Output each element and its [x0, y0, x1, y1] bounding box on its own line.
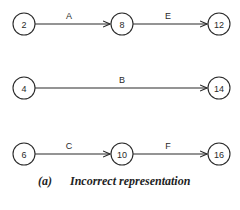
edge-e: E [133, 11, 207, 24]
edge-label-b: B [119, 75, 125, 85]
edge-f: F [133, 141, 207, 154]
node-label: 16 [214, 150, 224, 160]
node-4: 4 [13, 77, 35, 99]
caption-prefix: (a) [38, 174, 52, 188]
edge-label-f: F [165, 141, 171, 151]
edge-label-a: A [66, 11, 72, 21]
caption-text: Incorrect representation [69, 174, 191, 188]
node-16: 16 [208, 143, 230, 165]
node-label: 4 [21, 84, 26, 94]
edge-label-e: E [165, 11, 171, 21]
node-label: 6 [21, 150, 26, 160]
edge-b: B [35, 75, 207, 88]
edge-a: A [35, 11, 110, 24]
node-label: 10 [117, 150, 127, 160]
node-label: 14 [214, 84, 224, 94]
edge-label-c: C [66, 141, 73, 151]
node-14: 14 [208, 77, 230, 99]
node-6: 6 [13, 143, 35, 165]
node-label: 12 [214, 20, 224, 30]
node-label: 2 [21, 20, 26, 30]
node-8: 8 [111, 13, 133, 35]
activity-network-diagram: A E B C F 2 8 12 4 14 6 [0, 0, 240, 210]
node-label: 8 [119, 20, 124, 30]
node-12: 12 [208, 13, 230, 35]
node-10: 10 [111, 143, 133, 165]
node-2: 2 [13, 13, 35, 35]
edge-c: C [35, 141, 110, 154]
